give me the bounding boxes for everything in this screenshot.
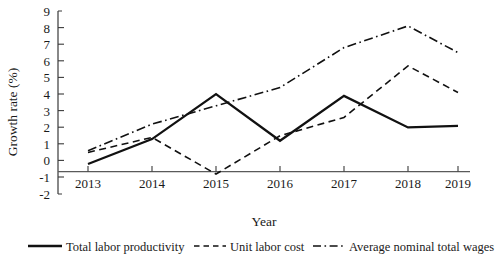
x-tick-label: 2014 bbox=[139, 176, 166, 191]
y-axis-title: Growth rate (%) bbox=[5, 68, 20, 156]
x-tick-label: 2013 bbox=[75, 176, 101, 191]
x-tick-label: 2016 bbox=[267, 176, 294, 191]
series-line-average-nominal-total-wages bbox=[88, 26, 458, 151]
y-tick-label: 0 bbox=[44, 153, 51, 168]
series-line-total-labor-productivity bbox=[88, 94, 458, 164]
x-tick-label: 2015 bbox=[203, 176, 229, 191]
y-tick-label: 2 bbox=[44, 120, 51, 135]
y-tick-marks bbox=[58, 28, 64, 177]
x-tick-label: 2018 bbox=[395, 176, 421, 191]
y-tick-label: 4 bbox=[44, 87, 51, 102]
chart-figure: Growth rate (%) 9 8 7 6 5 4 3 2 1 0 -1 -… bbox=[0, 0, 498, 263]
x-tick-marks bbox=[88, 166, 458, 172]
legend-label: Average nominal total wages bbox=[349, 240, 494, 254]
y-tick-label: -1 bbox=[39, 170, 50, 185]
y-tick-label: -2 bbox=[39, 187, 50, 202]
x-tick-label: 2019 bbox=[445, 176, 471, 191]
x-tick-labels: 2013 2014 2015 2016 2017 2018 2019 bbox=[75, 176, 471, 191]
y-tick-label: 6 bbox=[44, 54, 51, 69]
y-tick-label: 1 bbox=[44, 137, 51, 152]
legend-item-total-labor-productivity: Total labor productivity bbox=[28, 240, 185, 254]
x-tick-label: 2017 bbox=[331, 176, 358, 191]
y-tick-label: 8 bbox=[44, 21, 51, 36]
y-axis-line bbox=[58, 11, 62, 194]
legend-item-unit-labor-cost: Unit labor cost bbox=[194, 240, 305, 254]
legend-label: Total labor productivity bbox=[66, 240, 185, 254]
y-tick-label: 5 bbox=[44, 70, 51, 85]
y-tick-label: 7 bbox=[44, 37, 51, 52]
series-line-unit-labor-cost bbox=[88, 66, 458, 174]
x-axis-title: Year bbox=[252, 214, 277, 229]
y-tick-labels: 9 8 7 6 5 4 3 2 1 0 -1 -2 bbox=[39, 4, 50, 202]
legend-label: Unit labor cost bbox=[230, 240, 305, 254]
legend-item-average-nominal-total-wages: Average nominal total wages bbox=[313, 240, 494, 254]
y-tick-label: 3 bbox=[44, 104, 51, 119]
y-tick-label: 9 bbox=[44, 4, 51, 19]
line-chart: Growth rate (%) 9 8 7 6 5 4 3 2 1 0 -1 -… bbox=[0, 0, 498, 263]
chart-legend: Total labor productivity Unit labor cost… bbox=[28, 240, 494, 254]
